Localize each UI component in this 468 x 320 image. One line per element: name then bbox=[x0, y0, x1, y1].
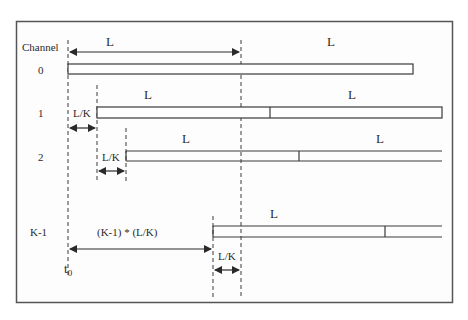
cumulative-offset-label: (K-1) * (L/K) bbox=[97, 226, 158, 239]
channel-label-0: 0 bbox=[38, 64, 44, 76]
channel-k1-segment-label: L bbox=[270, 206, 278, 221]
channel-label-1: 1 bbox=[38, 107, 44, 119]
channel-header-label: Channel bbox=[22, 41, 59, 53]
channel-2-segment-label-a: L bbox=[182, 131, 190, 146]
channel-0-bar bbox=[68, 64, 413, 74]
time-origin-subscript: 0 bbox=[68, 268, 73, 278]
length-label-top-2: L bbox=[327, 34, 335, 49]
channel-1-segment-label-a: L bbox=[144, 87, 152, 102]
channel-1-offset-label: L/K bbox=[73, 107, 91, 119]
channel-2-segment-label-b: L bbox=[376, 131, 384, 146]
channel-2-offset-label: L/K bbox=[102, 151, 120, 163]
channel-k1-offset-label: L/K bbox=[218, 250, 236, 262]
channel-1-segment-label-b: L bbox=[348, 87, 356, 102]
channel-offset-diagram: Channel L L 0 L L 1 L/K L L 2 L/K L K-1 … bbox=[0, 0, 468, 320]
channel-label-2: 2 bbox=[38, 151, 44, 163]
channel-label-k1: K-1 bbox=[30, 226, 47, 238]
length-label-top: L bbox=[106, 34, 114, 49]
